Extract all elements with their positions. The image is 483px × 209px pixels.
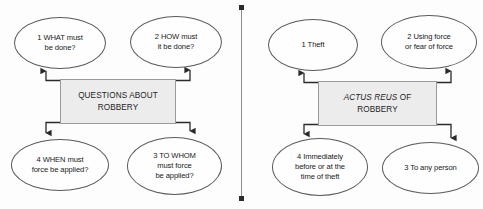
right-flowchart-panel: 1 Theft 2 Using force or fear of force 4… xyxy=(247,0,483,209)
node-line: 3 TO WHOM xyxy=(153,151,196,161)
node-line: before or at the xyxy=(295,162,345,172)
node-line: 4 WHEN must xyxy=(32,155,89,165)
vertical-divider xyxy=(240,5,243,201)
center-box-line: QUESTIONS ABOUT xyxy=(78,90,158,102)
arrow-to-node-1 xyxy=(46,71,60,81)
divider-cap-bottom xyxy=(239,196,244,201)
node-line: must force xyxy=(153,161,196,171)
arrow-to-node-2 xyxy=(176,70,190,81)
node-line: time of theft xyxy=(295,172,345,182)
arrow-to-node-3 xyxy=(437,125,451,139)
center-box-questions-about-robbery: QUESTIONS ABOUT ROBBERY xyxy=(60,79,176,124)
divider-cap-top xyxy=(239,5,244,10)
node-line: force be applied? xyxy=(32,165,89,175)
node-how-must-it-be-done: 2 HOW must it be done? xyxy=(130,16,222,68)
node-what-must-be-done: 1 WHAT must be done? xyxy=(14,17,106,69)
center-box-line: ROBBERY xyxy=(78,102,158,114)
node-line: it be done? xyxy=(155,42,197,52)
node-when-must-force-be-applied: 4 WHEN must force be applied? xyxy=(11,139,109,191)
arrow-to-node-4 xyxy=(46,123,60,134)
node-line: 2 Using force xyxy=(405,32,453,42)
arrow-to-node-2 xyxy=(437,71,451,83)
node-line: or fear of force xyxy=(405,42,453,52)
arrow-to-node-3 xyxy=(176,123,190,132)
arrow-to-node-1 xyxy=(304,73,318,83)
node-line: be applied? xyxy=(153,171,196,181)
node-line: 2 HOW must xyxy=(155,32,197,42)
diagram-canvas: 1 WHAT must be done? 2 HOW must it be do… xyxy=(0,0,483,209)
node-line: 1 WHAT must xyxy=(37,33,82,43)
node-line: 4 Immediately xyxy=(295,152,345,162)
actus-reus-italic: ACTUS REUS xyxy=(344,93,398,102)
divider-rule xyxy=(241,5,242,201)
node-line: 1 Theft xyxy=(302,40,325,50)
center-box-line: ACTUS REUS OF xyxy=(344,92,412,104)
node-immediately-before-or-at-the-time-of-theft: 4 Immediately before or at the time of t… xyxy=(272,138,368,196)
node-line: be done? xyxy=(37,43,82,53)
arrow-to-node-4 xyxy=(304,125,318,135)
actus-reus-suffix: OF xyxy=(397,93,411,102)
center-box-actus-reus-of-robbery: ACTUS REUS OF ROBBERY xyxy=(318,81,437,126)
center-box-line: ROBBERY xyxy=(344,104,412,116)
node-theft: 1 Theft xyxy=(268,19,358,71)
node-using-force-or-fear-of-force: 2 Using force or fear of force xyxy=(381,15,477,69)
node-to-any-person: 3 To any person xyxy=(382,142,479,194)
node-to-whom-must-force-be-applied: 3 TO WHOM must force be applied? xyxy=(127,137,222,195)
left-flowchart-panel: 1 WHAT must be done? 2 HOW must it be do… xyxy=(0,0,236,209)
node-line: 3 To any person xyxy=(404,163,456,173)
